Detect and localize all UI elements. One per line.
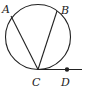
- label-c: C: [32, 76, 41, 89]
- chord-cb: [38, 11, 57, 70]
- chord-ca: [11, 16, 38, 70]
- label-b: B: [60, 4, 69, 17]
- point-d-dot: [65, 67, 69, 71]
- label-d: D: [60, 76, 70, 89]
- geometry-diagram: A B C D: [0, 0, 86, 92]
- label-a: A: [1, 3, 10, 16]
